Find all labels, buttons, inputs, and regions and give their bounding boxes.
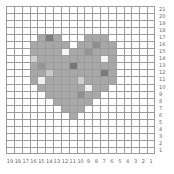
column-label: 8 bbox=[92, 158, 100, 164]
heart-cell bbox=[77, 76, 85, 83]
heart-cell bbox=[37, 69, 45, 76]
column-label: 5 bbox=[116, 158, 124, 164]
heart-cell bbox=[61, 105, 69, 112]
column-label: 10 bbox=[77, 158, 85, 164]
heart-cell bbox=[30, 48, 38, 55]
row-label: 20 bbox=[159, 13, 165, 20]
heart-cell bbox=[69, 105, 77, 112]
grid-line bbox=[6, 27, 155, 28]
grid-line bbox=[6, 20, 155, 21]
row-label: 8 bbox=[159, 98, 162, 105]
heart-cell bbox=[84, 48, 92, 55]
grid-line bbox=[6, 84, 155, 85]
heart-cell bbox=[100, 41, 108, 48]
heart-cell bbox=[69, 112, 77, 119]
heart-cell bbox=[84, 34, 92, 41]
heart-cell bbox=[92, 69, 100, 76]
heart-cell bbox=[53, 98, 61, 105]
heart-cell bbox=[61, 62, 69, 69]
heart-cell bbox=[69, 98, 77, 105]
heart-cell bbox=[77, 55, 85, 62]
heart-cell bbox=[61, 91, 69, 98]
heart-cell bbox=[53, 69, 61, 76]
heart-cell bbox=[84, 84, 92, 91]
heart-cell bbox=[37, 34, 45, 41]
heart-cell bbox=[53, 62, 61, 69]
heart-cell bbox=[100, 62, 108, 69]
heart-cell bbox=[92, 55, 100, 62]
heart-cell bbox=[69, 84, 77, 91]
heart-cell bbox=[92, 91, 100, 98]
column-label: 9 bbox=[84, 158, 92, 164]
grid-line bbox=[6, 133, 155, 134]
grid-line bbox=[6, 62, 155, 63]
grid-line bbox=[6, 76, 155, 77]
row-label: 15 bbox=[159, 48, 165, 55]
column-label: 3 bbox=[131, 158, 139, 164]
grid-line bbox=[77, 6, 78, 154]
column-label: 14 bbox=[45, 158, 53, 164]
heart-cell bbox=[92, 34, 100, 41]
grid-line bbox=[6, 13, 155, 14]
grid-line bbox=[84, 6, 85, 154]
heart-cell bbox=[108, 69, 116, 76]
grid-line bbox=[6, 119, 155, 120]
heart-cell bbox=[45, 55, 53, 62]
heart-cell bbox=[37, 76, 45, 83]
column-label: 1 bbox=[147, 158, 155, 164]
heart-cell bbox=[108, 76, 116, 83]
heart-cell bbox=[61, 98, 69, 105]
grid-line bbox=[6, 6, 7, 154]
heart-cell bbox=[53, 41, 61, 48]
heart-cell bbox=[69, 76, 77, 83]
heart-cell bbox=[30, 62, 38, 69]
column-label: 13 bbox=[53, 158, 61, 164]
row-label: 3 bbox=[159, 133, 162, 140]
row-label: 10 bbox=[159, 84, 165, 91]
heart-cell bbox=[61, 48, 69, 55]
heart-cell bbox=[84, 98, 92, 105]
heart-cell bbox=[92, 76, 100, 83]
heart-cell bbox=[84, 62, 92, 69]
heart-cell bbox=[30, 55, 38, 62]
heart-cell bbox=[108, 41, 116, 48]
heart-cell bbox=[92, 41, 100, 48]
grid-line bbox=[6, 55, 155, 56]
grid-line bbox=[116, 6, 117, 154]
heart-cell bbox=[84, 69, 92, 76]
heart-cell bbox=[69, 48, 77, 55]
row-label: 12 bbox=[159, 69, 165, 76]
heart-cell bbox=[100, 84, 108, 91]
heart-cell bbox=[61, 55, 69, 62]
grid-line bbox=[14, 6, 15, 154]
heart-cell bbox=[61, 76, 69, 83]
row-label: 6 bbox=[159, 112, 162, 119]
grid-line bbox=[53, 6, 54, 154]
grid-line bbox=[139, 6, 140, 154]
heart-cell bbox=[77, 105, 85, 112]
heart-cell bbox=[69, 62, 77, 69]
grid-line bbox=[69, 6, 70, 154]
grid-line bbox=[100, 6, 101, 154]
heart-cell bbox=[37, 48, 45, 55]
grid-line bbox=[92, 6, 93, 154]
column-label: 4 bbox=[124, 158, 132, 164]
row-label: 1 bbox=[159, 147, 162, 154]
heart-cell bbox=[30, 41, 38, 48]
grid-line bbox=[6, 105, 155, 106]
column-label: 17 bbox=[22, 158, 30, 164]
heart-cell bbox=[77, 62, 85, 69]
heart-cell bbox=[45, 84, 53, 91]
heart-cell bbox=[77, 69, 85, 76]
heart-cell bbox=[92, 84, 100, 91]
heart-cell bbox=[53, 76, 61, 83]
grid-line bbox=[6, 6, 155, 7]
heart-cell bbox=[53, 34, 61, 41]
heart-cell bbox=[30, 76, 38, 83]
heart-cell bbox=[45, 91, 53, 98]
column-label: 2 bbox=[139, 158, 147, 164]
grid-line bbox=[6, 41, 155, 42]
row-label: 2 bbox=[159, 140, 162, 147]
column-label: 18 bbox=[14, 158, 22, 164]
heart-cell bbox=[84, 41, 92, 48]
